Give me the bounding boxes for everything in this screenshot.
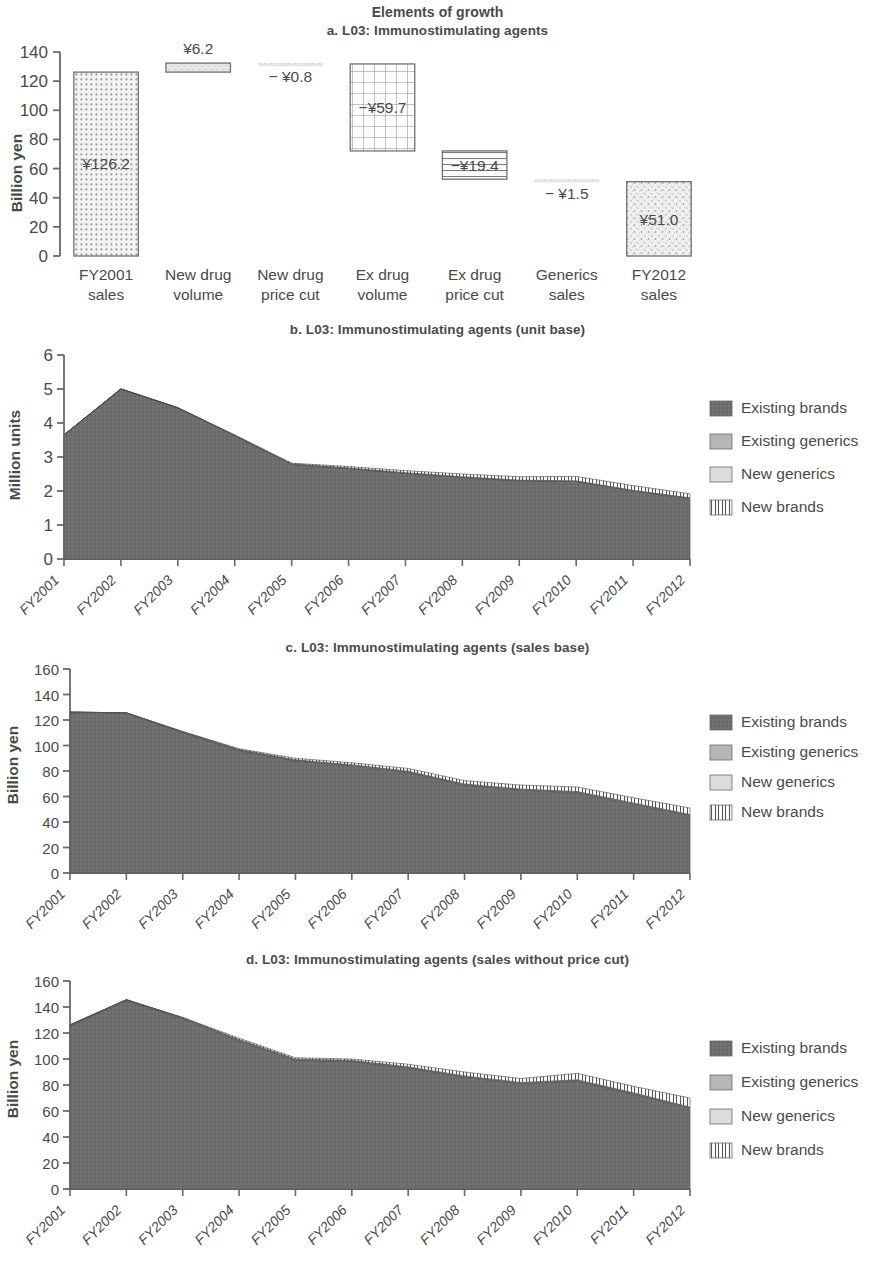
panel-a-category-labels: FY2001salesNew drugvolumeNew drugprice c… [79,266,686,303]
panel-a-category-label: sales [88,286,124,303]
waterfall-value-label: ¥6.2 [182,40,213,57]
panel-a-ytick: 140 [20,43,48,62]
panel-b-year-label: FY2006 [301,572,347,618]
panel-d-ytick: 140 [34,999,59,1016]
panel-a-ytick: 100 [20,101,48,120]
legend-label: New generics [741,1107,835,1124]
panel-d-year-labels: FY2001FY2002FY2003FY2004FY2005FY2006FY20… [22,1201,688,1248]
legend-swatch-new-brands-swatch [710,805,732,820]
panel-b-ytick: 5 [44,380,53,399]
panel-d-year-label: FY2004 [191,1202,237,1248]
panel-b-chart: 0123456 FY2001FY2002FY2003FY2004FY2005FY… [0,337,875,625]
panel-a-bars [74,63,691,256]
panel-c-ytick: 120 [34,712,59,729]
legend-label: New brands [741,803,824,820]
panel-b-year-label: FY2012 [642,572,688,618]
panel-d-year-label: FY2006 [304,1202,350,1248]
waterfall-bar [258,63,323,66]
panel-c-year-label: FY2006 [304,886,350,932]
legend-swatch-existing-brands-swatch [710,401,732,416]
panel-b-ytick: 3 [44,448,53,467]
panel-c-ytick: 80 [42,763,59,780]
panel-c-chart: 020406080100120140160 FY2001FY2002FY2003… [0,655,875,937]
panel-c-year-label: FY2008 [417,886,463,932]
panel-a-ytick: 120 [20,72,48,91]
panel-a-category-label: price cut [445,286,504,303]
panel-c-year-label: FY2009 [473,886,519,932]
panel-d-ytick: 80 [42,1077,59,1094]
panel-d-year-label: FY2001 [22,1202,68,1248]
panel-d-legend: Existing brandsExisting genericsNew gene… [710,1039,858,1158]
waterfall-bar [535,179,600,182]
legend-swatch-existing-generics-swatch [710,434,732,449]
panel-b-title: b. L03: Immunostimulating agents (unit b… [0,322,875,337]
panel-d-areas [70,1000,690,1189]
legend-label: New generics [741,773,835,790]
legend-swatch-new-brands-swatch [710,500,732,515]
figure-supertitle: Elements of growth [0,4,875,20]
waterfall-value-label: − ¥0.8 [269,68,313,85]
panel-c-ytick: 140 [34,687,59,704]
panel-d-ytick: 120 [34,1025,59,1042]
legend-label: Existing brands [741,399,847,416]
panel-a-axis: 020406080100120140 [20,43,60,266]
panel-a-category-label: New drug [165,266,231,283]
panel-d-year-label: FY2009 [473,1202,519,1248]
panel-d-chart: 020406080100120140160 FY2001FY2002FY2003… [0,967,875,1259]
panel-a-ytick: 40 [29,189,48,208]
panel-b-year-label: FY2009 [471,572,517,618]
panel-a-category-label: Ex drug [356,266,409,283]
panel-d-series-area [70,1001,690,1190]
legend-swatch-new-brands-swatch [710,1143,732,1158]
panel-a-ytick: 20 [29,218,48,237]
panel-c-ytick: 0 [51,865,59,882]
waterfall-value-label: ¥126.2 [81,155,129,172]
panel-d: d. L03: Immunostimulating agents (sales … [0,940,875,1262]
panel-b-ytick: 6 [44,346,53,365]
legend-label: Existing brands [741,713,847,730]
panel-d-year-label: FY2005 [248,1202,294,1248]
panel-b-ytick: 2 [44,482,53,501]
waterfall-bar [166,63,231,72]
panel-d-ytick: 20 [42,1155,59,1172]
panel-b-ytick: 1 [44,516,53,535]
panel-a-ylabel: Billion yen [8,134,25,212]
legend-label: New brands [741,498,824,515]
panel-c-title: c. L03: Immunostimulating agents (sales … [0,640,875,655]
legend-swatch-existing-generics-swatch [710,1075,732,1090]
panel-c-ytick: 100 [34,738,59,755]
legend-swatch-new-generics-swatch [710,467,732,482]
panel-d-year-label: FY2007 [360,1201,407,1248]
panel-c-areas [70,712,690,873]
panel-c-year-label: FY2003 [135,886,181,932]
panel-b-ytick: 4 [44,414,53,433]
panel-c-ytick: 40 [42,814,59,831]
legend-label: Existing brands [741,1039,847,1056]
panel-b-year-label: FY2004 [187,572,233,618]
panel-a-category-label: New drug [257,266,323,283]
area-chart-d-svg: 020406080100120140160 FY2001FY2002FY2003… [0,967,875,1259]
panel-b-areas [64,389,690,559]
panel-d-ytick: 40 [42,1129,59,1146]
legend-swatch-new-generics-swatch [710,1109,732,1124]
panel-b-year-label: FY2003 [130,572,176,618]
panel-b-year-label: FY2008 [414,572,460,618]
waterfall-value-label: −¥59.7 [359,99,407,116]
panel-a-category-label: FY2012 [632,266,686,283]
legend-label: Existing generics [741,743,858,760]
panel-c-ylabel: Billion yen [4,726,21,804]
panel-b-series-area [64,389,690,559]
legend-label: Existing generics [741,1073,858,1090]
panel-a: Elements of growth a. L03: Immunostimula… [0,0,875,318]
panel-d-year-label: FY2010 [529,1202,575,1248]
panel-c-legend: Existing brandsExisting genericsNew gene… [710,713,858,820]
panel-c-year-label: FY2010 [529,886,575,932]
panel-b-year-label: FY2005 [244,572,290,618]
legend-swatch-existing-generics-swatch [710,745,732,760]
panel-c-year-label: FY2004 [191,886,237,932]
panel-c: c. L03: Immunostimulating agents (sales … [0,630,875,940]
panel-a-category-label: sales [549,286,585,303]
panel-a-category-label: Ex drug [448,266,501,283]
panel-d-year-label: FY2008 [417,1202,463,1248]
waterfall-value-label: −¥19.4 [451,157,499,174]
